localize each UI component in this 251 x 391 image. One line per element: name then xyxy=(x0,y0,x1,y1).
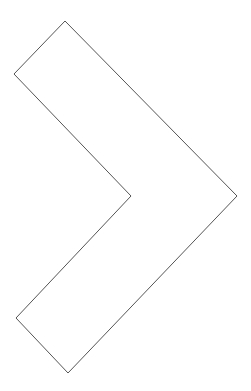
chevron-right-icon xyxy=(14,21,237,373)
chevron-diagram xyxy=(0,0,251,391)
